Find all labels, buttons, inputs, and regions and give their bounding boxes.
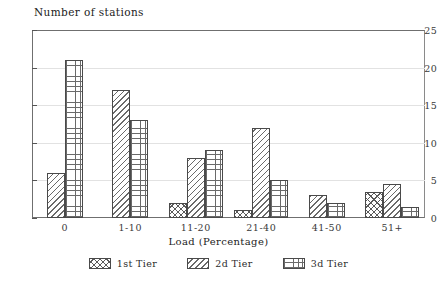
bar	[383, 184, 401, 218]
bar	[169, 203, 187, 218]
x-tick-label: 51+	[381, 222, 403, 233]
x-axis-title: Load (Percentage)	[0, 236, 437, 247]
x-tick-label: 11-20	[181, 222, 211, 233]
y-tick-label: 15	[413, 100, 437, 111]
bar	[270, 180, 288, 218]
legend-item: 1st Tier	[89, 258, 158, 269]
bar	[65, 60, 83, 218]
y-tick-label: 20	[413, 62, 437, 73]
legend-item: 3d Tier	[283, 258, 348, 269]
x-tick-label: 0	[61, 222, 68, 233]
x-tick-label: 21-40	[246, 222, 276, 233]
legend-item: 2d Tier	[187, 258, 252, 269]
bar	[365, 192, 383, 218]
bar	[47, 173, 65, 218]
y-axis	[0, 30, 28, 218]
y-tick-mark	[32, 218, 37, 219]
y-tick-mark	[32, 105, 37, 106]
bar	[112, 90, 130, 218]
y-tick-mark	[32, 180, 37, 181]
bar	[205, 150, 223, 218]
y-tick-label: 10	[413, 137, 437, 148]
y-tick-label: 5	[413, 175, 437, 186]
x-tick-label: 1-10	[119, 222, 142, 233]
legend-label: 3d Tier	[311, 258, 348, 269]
legend-swatch	[187, 258, 209, 269]
legend-swatch	[89, 258, 111, 269]
gridline	[32, 180, 425, 181]
legend-label: 2d Tier	[215, 258, 252, 269]
x-tick-label: 41-50	[312, 222, 342, 233]
bar	[234, 210, 252, 218]
y-tick-label: 0	[413, 213, 437, 224]
gridline	[32, 105, 425, 106]
bar	[309, 195, 327, 218]
bar	[252, 128, 270, 218]
gridline	[32, 68, 425, 69]
y-tick-mark	[32, 143, 37, 144]
y-tick-mark	[32, 68, 37, 69]
bar	[187, 158, 205, 218]
bar	[130, 120, 148, 218]
bar	[327, 203, 345, 218]
y-tick-mark	[32, 30, 37, 31]
plot-area	[32, 30, 425, 218]
gridline	[32, 143, 425, 144]
legend-label: 1st Tier	[117, 258, 158, 269]
legend-swatch	[283, 258, 305, 269]
chart-legend: 1st Tier2d Tier3d Tier	[0, 258, 437, 269]
chart-title: Number of stations	[34, 6, 144, 18]
y-tick-label: 25	[413, 25, 437, 36]
bar-chart-figure: Number of stations Load (Percentage) 1st…	[0, 0, 437, 291]
